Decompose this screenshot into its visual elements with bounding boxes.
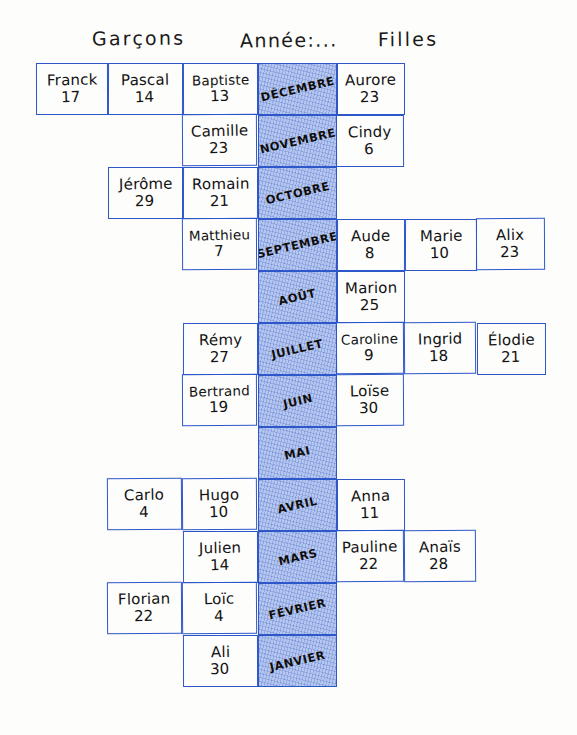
month-cell: NOVEMBRE: [258, 115, 337, 167]
person-age: 14: [209, 557, 228, 573]
month-label: JUILLET: [270, 336, 324, 361]
person-name: Anna: [351, 489, 391, 505]
month-label: DÉCEMBRE: [259, 74, 336, 105]
girl-cell: Ingrid18: [404, 322, 476, 374]
person-age: 30: [359, 400, 379, 416]
person-name: Aurore: [345, 73, 396, 89]
person-name: Aude: [352, 229, 392, 245]
person-age: 6: [364, 141, 374, 157]
person-name: Anaïs: [419, 540, 461, 556]
person-age: 13: [209, 88, 228, 104]
person-age: 10: [431, 246, 450, 262]
boy-cell: Jérôme29: [108, 167, 183, 219]
person-name: Ingrid: [417, 332, 462, 348]
month-cell: JUIN: [258, 375, 337, 427]
girl-cell: Anaïs28: [404, 530, 476, 582]
month-label: AVRIL: [276, 494, 319, 517]
person-name: Marie: [420, 229, 463, 245]
boy-cell: Rémy27: [183, 323, 258, 375]
month-label: AOÛT: [277, 286, 317, 308]
month-cell: JANVIER: [258, 635, 337, 687]
month-label: SEPTEMBRE: [258, 229, 337, 261]
girl-cell: Anna11: [337, 479, 405, 531]
month-cell: JUILLET: [258, 323, 337, 375]
boy-cell: Camille23: [182, 114, 257, 166]
boy-cell: Hugo10: [182, 478, 257, 530]
girl-cell: Pauline22: [336, 530, 404, 582]
person-name: Franck: [46, 72, 97, 88]
person-name: Julien: [199, 541, 241, 557]
month-cell: MARS: [258, 531, 337, 583]
person-age: 18: [429, 348, 449, 364]
person-name: Pascal: [122, 73, 170, 89]
person-name: Hugo: [199, 488, 240, 504]
boy-cell: Loïc4: [182, 582, 257, 634]
boy-cell: Bertrand19: [182, 374, 257, 426]
person-age: 29: [135, 193, 154, 209]
month-cell: FÉVRIER: [258, 583, 337, 635]
month-label: NOVEMBRE: [258, 125, 337, 156]
boy-cell: Matthieu7: [182, 218, 257, 270]
person-age: 21: [501, 349, 520, 365]
person-name: Loïc: [204, 592, 235, 608]
person-age: 28: [429, 556, 449, 572]
person-age: 9: [364, 348, 374, 364]
boy-cell: Ali30: [183, 635, 258, 687]
month-cell: AVRIL: [258, 479, 337, 531]
person-name: Cindy: [348, 124, 392, 140]
girl-cell: Marie10: [405, 219, 477, 271]
boy-cell: Romain21: [183, 167, 258, 219]
boy-cell: Franck17: [36, 63, 108, 115]
girl-cell: Caroline9: [336, 322, 404, 374]
girl-cell: Aude8: [337, 219, 405, 271]
person-age: 8: [365, 246, 375, 262]
person-age: 10: [209, 504, 229, 520]
person-name: Carlo: [124, 488, 165, 504]
month-label: FÉVRIER: [267, 596, 327, 623]
month-label: OCTOBRE: [264, 179, 331, 207]
month-label: JANVIER: [268, 648, 327, 674]
boy-cell: Baptiste13: [183, 63, 258, 115]
girl-cell: Loïse30: [336, 374, 404, 426]
person-name: Rémy: [199, 333, 243, 349]
boy-cell: Florian22: [107, 582, 182, 634]
girl-cell: Marion25: [337, 271, 405, 323]
month-label: MARS: [276, 546, 318, 569]
boy-cell: Carlo4: [107, 478, 182, 530]
person-age: 23: [209, 141, 229, 157]
person-name: Marion: [345, 281, 398, 297]
person-age: 4: [139, 505, 149, 521]
month-label: JUIN: [281, 391, 313, 411]
person-age: 22: [359, 556, 379, 572]
person-name: Élodie: [488, 333, 535, 349]
person-age: 23: [360, 89, 379, 105]
person-age: 14: [135, 90, 154, 106]
month-cell: MAI: [258, 427, 337, 479]
person-age: 7: [214, 244, 224, 260]
person-age: 25: [360, 297, 379, 313]
person-name: Ali: [210, 645, 230, 661]
population-pyramid-grid: DÉCEMBREFranck17Pascal14Baptiste13Aurore…: [0, 0, 577, 735]
person-age: 21: [210, 194, 229, 210]
month-cell: DÉCEMBRE: [258, 63, 337, 115]
person-name: Romain: [192, 177, 250, 193]
person-name: Pauline: [342, 540, 398, 557]
girl-cell: Élodie21: [477, 323, 546, 375]
person-name: Alix: [496, 228, 525, 244]
person-age: 30: [209, 661, 228, 677]
month-cell: OCTOBRE: [258, 167, 337, 219]
person-name: Jérôme: [118, 177, 172, 193]
paper-sheet: Garçons Année:... Filles DÉCEMBREFranck1…: [0, 0, 577, 735]
month-label: MAI: [283, 443, 312, 463]
person-age: 4: [213, 609, 223, 625]
boy-cell: Julien14: [183, 531, 258, 583]
person-age: 17: [61, 89, 80, 105]
month-cell: AOÛT: [258, 271, 337, 323]
person-age: 19: [209, 400, 229, 416]
girl-cell: Alix23: [476, 218, 545, 270]
month-cell: SEPTEMBRE: [258, 219, 337, 271]
boy-cell: Pascal14: [108, 63, 183, 115]
person-age: 11: [360, 505, 379, 521]
girl-cell: Aurore23: [337, 63, 405, 115]
girl-cell: Cindy6: [336, 114, 404, 166]
